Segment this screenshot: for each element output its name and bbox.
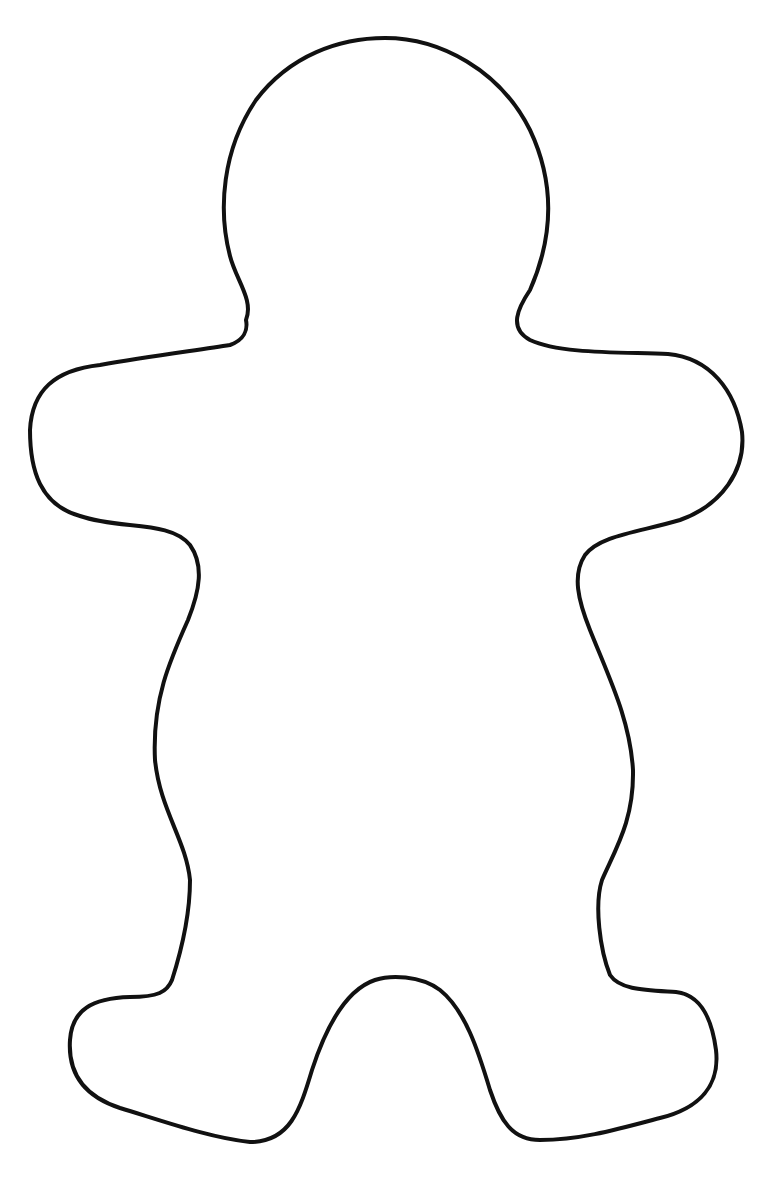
drawing-canvas [0,0,760,1179]
gingerbread-man-figure [0,0,760,1179]
gingerbread-man-outline [30,38,742,1142]
